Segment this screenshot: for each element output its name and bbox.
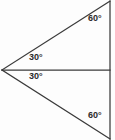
angle-label-upper-left: 30° xyxy=(29,53,43,62)
angle-label-lower-right: 60° xyxy=(88,111,102,120)
angle-label-upper-right: 60° xyxy=(88,14,102,23)
upper-slant-line xyxy=(2,1,110,70)
angle-label-lower-left: 30° xyxy=(29,72,43,81)
geometry-figure: 60° 60° 30° 30° xyxy=(0,0,115,140)
lower-slant-line xyxy=(2,70,110,139)
